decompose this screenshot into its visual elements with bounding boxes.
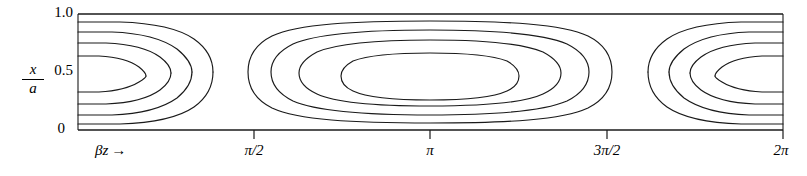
contour-right-l2-lower (669, 72, 783, 115)
contour-left-l2-upper (78, 32, 192, 72)
contour-centre-outer (248, 21, 612, 123)
contour-centre-l2 (271, 30, 589, 115)
contour-right-l2-upper (669, 32, 783, 72)
x-tick-label-3pi-over-2: 3π/2 (594, 142, 621, 159)
y-tick-label-0-5: 0.5 (47, 62, 73, 79)
contour-left-outer-upper (78, 22, 213, 72)
contour-figure: x a 1.0 0.5 0 βz→ π/2 π 3π/2 2π (0, 0, 807, 176)
contour-right-l4-lower (715, 76, 783, 92)
y-axis-label-numerator: x (20, 62, 46, 78)
contour-centre-l4 (341, 53, 519, 100)
x-axis-ticks (254, 130, 783, 139)
y-axis-label: x a (20, 62, 46, 97)
x-tick-label-pi-over-2: π/2 (244, 142, 263, 159)
contour-left-l4-lower (78, 76, 146, 92)
contour-left-l4-upper (78, 56, 146, 76)
contour-left-l3-upper (78, 43, 171, 73)
contour-right-outer-upper (648, 22, 783, 72)
contour-right-l4-upper (715, 56, 783, 76)
contour-lines (78, 21, 783, 124)
x-tick-label-2pi: 2π (773, 142, 788, 159)
arrow-right-icon: → (108, 142, 126, 158)
y-tick-label-0: 0 (47, 120, 65, 137)
x-axis-label: βz→ (95, 142, 126, 159)
contour-right-l3-upper (690, 43, 783, 73)
contour-left-l2-lower (78, 72, 192, 115)
y-tick-label-1: 1.0 (39, 4, 73, 21)
contour-centre-l3 (299, 40, 561, 106)
x-axis-label-text: βz (95, 142, 108, 158)
x-tick-label-pi: π (426, 142, 434, 159)
y-axis-label-denominator: a (20, 81, 46, 97)
